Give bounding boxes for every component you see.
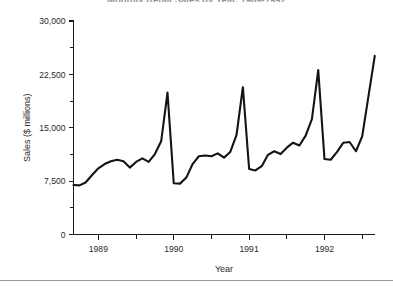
x-tick-label: 1991 [240,244,259,254]
x-axis-tick-labels: 1989199019911992 [89,244,334,254]
x-tick-label: 1989 [89,244,108,254]
y-tick-label: 30,000 [39,16,66,26]
y-axis-tick-labels: 07,50015,00022,50030,000 [39,16,66,240]
y-tick-label: 0 [61,230,66,240]
footer-divider [0,280,393,281]
chart-figure: Monthly Retail Sales by Year, 1989-1992 … [0,0,393,287]
y-axis-title: Sales ($ millions) [22,93,32,162]
data-series-line [74,56,375,186]
y-tick-label: 7,500 [44,176,66,186]
y-tick-label: 22,500 [39,70,66,80]
chart-plot-area: 07,50015,00022,50030,000 198919901991199… [0,0,393,287]
y-axis-ticks [69,21,74,235]
x-tick-label: 1992 [315,244,334,254]
chart-axes [74,21,376,235]
y-tick-label: 15,000 [39,123,66,133]
x-tick-label: 1990 [164,244,183,254]
x-axis-ticks [98,235,362,240]
x-axis-title: Year [215,264,233,274]
